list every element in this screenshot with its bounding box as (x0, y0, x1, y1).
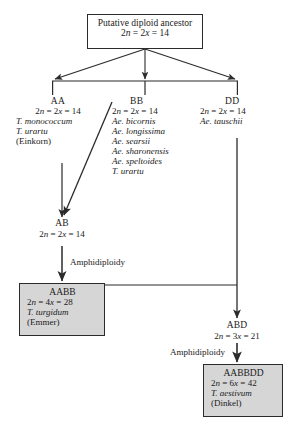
diagram-canvas: Putative diploid ancestor 2n = 2x = 14 A… (0, 0, 293, 439)
genome-bb-species-2: Ae. searsii (112, 136, 202, 146)
genome-aa-species-1: T. urartu (16, 126, 100, 136)
hybrid-abd-formula: 2n = 3x = 21 (193, 331, 281, 342)
genome-bb-species-0: Ae. bicornis (112, 116, 202, 126)
polyploid-aabbdd-box: AABBDD 2n = 6x = 42 T. aestivum (Dinkel) (203, 364, 283, 417)
genome-bb-species-5: T. urartu (112, 166, 202, 176)
putative-diploid-ancestor-box: Putative diploid ancestor 2n = 2x = 14 (87, 14, 203, 49)
hybrid-abd-group: ABD 2n = 3x = 21 (193, 320, 281, 342)
genome-bb-species-1: Ae. longissima (112, 126, 202, 136)
genome-aa-group: AA 2n = 2x = 14 T. monococcum T. urartu … (16, 96, 100, 146)
genome-dd-species-0: Ae. tauschii (200, 116, 288, 126)
polyploid-aabb-formula: 2n = 4x = 28 (27, 297, 98, 307)
genome-bb-group: BB 2n = 2x = 14 Ae. bicornis Ae. longiss… (112, 96, 202, 176)
hybrid-ab-formula: 2n = 2x = 14 (18, 229, 106, 240)
genome-aa-header: AA (16, 96, 100, 106)
genome-aa-common: (Einkorn) (16, 136, 100, 146)
genome-dd-header: DD (200, 96, 288, 106)
ancestor-fan-arrows (55, 49, 235, 79)
polyploid-aabbdd-common: (Dinkel) (211, 398, 276, 408)
amphidiploidy-label-1: Amphidiploidy (70, 257, 125, 267)
ancestor-label: Putative diploid ancestor (94, 18, 196, 28)
polyploid-aabb-common: (Emmer) (27, 317, 98, 327)
genome-aa-species-0: T. monococcum (16, 116, 100, 126)
amphidiploidy-label-2: Amphidiploidy (170, 347, 225, 357)
polyploid-aabb-header: AABB (27, 287, 98, 297)
genome-bb-header: BB (112, 96, 202, 106)
genome-bb-species-3: Ae. sharonensis (112, 146, 202, 156)
polyploid-aabbdd-species: T. aestivum (211, 388, 276, 398)
ancestor-formula: 2n = 2x = 14 (94, 28, 196, 38)
polyploid-aabb-box: AABB 2n = 4x = 28 T. turgidum (Emmer) (19, 283, 105, 336)
polyploid-aabb-species: T. turgidum (27, 307, 98, 317)
distribution-bar (52, 81, 238, 95)
hybrid-ab-header: AB (18, 218, 106, 229)
genome-bb-formula: 2n = 2x = 14 (112, 106, 202, 116)
polyploid-aabbdd-header: AABBDD (211, 368, 276, 378)
genome-dd-formula: 2n = 2x = 14 (200, 106, 288, 116)
polyploid-aabbdd-formula: 2n = 6x = 42 (211, 378, 276, 388)
genome-bb-species-4: Ae. speltoides (112, 156, 202, 166)
genome-dd-group: DD 2n = 2x = 14 Ae. tauschii (200, 96, 288, 126)
hybrid-ab-group: AB 2n = 2x = 14 (18, 218, 106, 240)
hybrid-abd-header: ABD (193, 320, 281, 331)
genome-aa-formula: 2n = 2x = 14 (16, 106, 100, 116)
